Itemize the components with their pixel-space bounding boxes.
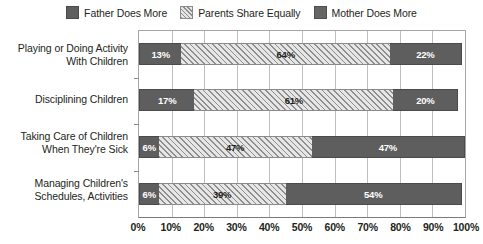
segment-mother-does-more: 54% [286, 183, 462, 205]
bar-row: 17%61%20% [139, 89, 465, 111]
chart-legend: Father Does More Parents Share Equally M… [0, 6, 483, 19]
legend-swatch-icon-father [66, 6, 79, 19]
bar-segment-value-label: 39% [213, 189, 231, 200]
segment-parents-share-equally: 61% [194, 89, 393, 111]
segment-father-does-more: 6% [139, 183, 159, 205]
bar-segment-value-label: 6% [143, 189, 156, 200]
category-label-sick-care: Taking Care of Children When They're Sic… [0, 130, 128, 155]
x-axis-tick-label: 20% [193, 221, 213, 234]
legend-swatch-icon-shared [180, 6, 193, 19]
category-label-line: Taking Care of Children [0, 130, 128, 143]
segment-mother-does-more: 47% [312, 136, 465, 158]
bar-series-container: 13%64%22%17%61%20%6%47%47%6%39%54% [139, 31, 465, 217]
category-label-line: Managing Children's [0, 177, 128, 190]
bar-row: 6%39%54% [139, 183, 465, 205]
category-axis-labels: Playing or Doing Activity With Children … [0, 30, 133, 218]
legend-item-father-does-more: Father Does More [66, 6, 167, 19]
bar-row: 6%47%47% [139, 136, 465, 158]
segment-parents-share-equally: 64% [181, 43, 390, 65]
bar-segment-value-label: 6% [143, 142, 156, 153]
bar-segment-value-label: 61% [285, 95, 303, 106]
segment-parents-share-equally: 39% [159, 183, 286, 205]
x-axis-tick-label: 30% [226, 221, 246, 234]
segment-mother-does-more: 20% [393, 89, 458, 111]
x-axis-tick-label: 40% [259, 221, 279, 234]
legend-label-shared: Parents Share Equally [198, 7, 300, 19]
segment-father-does-more: 13% [139, 43, 181, 65]
category-label-line: When They're Sick [0, 143, 128, 156]
bar-segment-value-label: 47% [226, 142, 244, 153]
category-label-disciplining: Disciplining Children [0, 93, 128, 106]
bar-segment-value-label: 47% [379, 142, 397, 153]
legend-item-mother-does-more: Mother Does More [314, 6, 417, 19]
x-axis-tick-label: 80% [390, 221, 410, 234]
bar-segment-value-label: 13% [151, 49, 169, 60]
y-axis-tick [134, 171, 139, 172]
segment-father-does-more: 17% [139, 89, 194, 111]
x-axis-tick-label: 60% [325, 221, 345, 234]
legend-label-father: Father Does More [84, 7, 167, 19]
x-axis-tick-label: 0% [131, 221, 146, 234]
segment-father-does-more: 6% [139, 136, 159, 158]
x-axis-tick-label: 100% [453, 221, 479, 234]
bar-row: 13%64%22% [139, 43, 465, 65]
x-axis-tick-label: 50% [292, 221, 312, 234]
bar-segment-value-label: 20% [416, 95, 434, 106]
bar-segment-value-label: 17% [158, 95, 176, 106]
legend-label-mother: Mother Does More [332, 7, 417, 19]
segment-parents-share-equally: 47% [159, 136, 312, 158]
segment-mother-does-more: 22% [390, 43, 462, 65]
legend-swatch-icon-mother [314, 6, 327, 19]
category-label-schedules: Managing Children's Schedules, Activitie… [0, 177, 128, 202]
y-axis-tick [134, 78, 139, 79]
x-axis-tick-label: 70% [357, 221, 377, 234]
x-axis-tick-label: 10% [161, 221, 181, 234]
stacked-bar-chart: Father Does More Parents Share Equally M… [0, 0, 483, 244]
bar-segment-value-label: 22% [416, 49, 434, 60]
category-label-line: Playing or Doing Activity [0, 42, 128, 55]
x-axis-tick-labels: 0%10%20%30%40%50%60%70%80%90%100% [138, 221, 466, 237]
bar-segment-value-label: 64% [276, 49, 294, 60]
category-label-line: Disciplining Children [0, 93, 128, 106]
plot-area: 13%64%22%17%61%20%6%47%47%6%39%54% [138, 30, 466, 218]
category-label-playing: Playing or Doing Activity With Children [0, 42, 128, 67]
category-label-line: With Children [0, 55, 128, 68]
category-label-line: Schedules, Activities [0, 190, 128, 203]
x-axis-tick-label: 90% [423, 221, 443, 234]
y-axis-tick [134, 124, 139, 125]
bar-segment-value-label: 54% [364, 189, 382, 200]
legend-item-parents-share-equally: Parents Share Equally [180, 6, 300, 19]
